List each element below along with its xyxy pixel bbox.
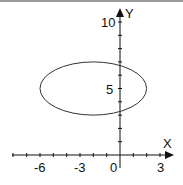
x-tick-label-neg3: -3	[74, 161, 86, 174]
x-tick-label-3: 3	[157, 161, 164, 174]
x-tick-label-0: 0	[110, 161, 117, 174]
x-axis-label: X	[163, 137, 172, 150]
x-tick-label-neg6: -6	[34, 161, 46, 174]
plot-area	[0, 0, 183, 185]
y-tick-label-5: 5	[106, 83, 113, 96]
ellipse-curve	[40, 62, 147, 115]
x-axis-arrow-icon	[165, 151, 174, 159]
y-axis-label: Y	[125, 7, 134, 20]
y-tick-label-10: 10	[101, 16, 115, 29]
y-axis-arrow-icon	[116, 8, 124, 17]
